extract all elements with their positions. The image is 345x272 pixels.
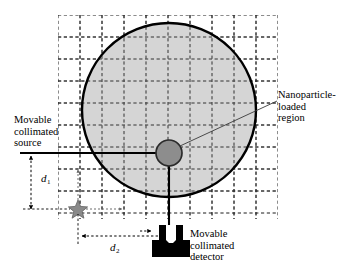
detector-label-line-1: Movable — [190, 228, 234, 240]
dimension-label-d1: d1 — [41, 172, 50, 184]
dimension-label-d2: d2 — [110, 241, 119, 253]
nanoparticle-region-circle — [156, 140, 182, 166]
source-label-line-2: collimated — [14, 126, 58, 138]
source-label-line-3: source — [14, 137, 58, 149]
source-label-line-1: Movable — [14, 114, 58, 126]
nanoparticle-label-line-3: region — [278, 112, 336, 124]
nanoparticle-label-line-1: Nanoparticle- — [278, 89, 336, 101]
detector-label-line-3: detector — [190, 251, 234, 263]
d2-symbol: d — [110, 241, 116, 253]
d1-subscript: 1 — [47, 178, 51, 186]
label-nanoparticle-loaded-region: Nanoparticle- loaded region — [278, 89, 336, 124]
label-movable-collimated-detector: Movable collimated detector — [190, 228, 234, 263]
d2-subscript: 2 — [116, 247, 120, 255]
d1-symbol: d — [41, 172, 47, 184]
schematic-diagram-figure: Movable collimated source Nanoparticle- … — [0, 0, 345, 272]
nanoparticle-label-line-2: loaded — [278, 101, 336, 113]
label-movable-collimated-source: Movable collimated source — [14, 114, 58, 149]
detector-collimator-slot — [166, 225, 176, 243]
detector-label-line-2: collimated — [190, 240, 234, 252]
